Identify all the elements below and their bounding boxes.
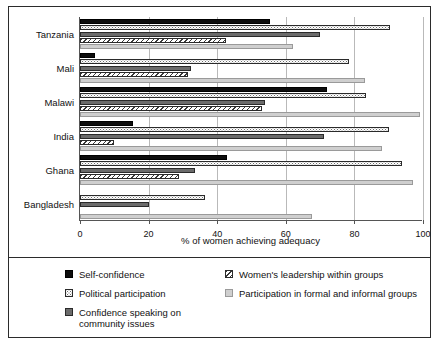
bar-row — [80, 72, 423, 77]
bar-row — [80, 214, 423, 219]
plot-wrapper: 020406080100TanzaniaMaliMalawiIndiaGhana… — [9, 7, 430, 255]
category-label: Ghana — [45, 165, 74, 176]
category-label: Mali — [57, 63, 74, 74]
bar-row — [80, 202, 423, 207]
bar-row — [80, 168, 423, 173]
bar-row — [80, 53, 423, 58]
bar — [80, 174, 179, 179]
bar-row — [80, 32, 423, 37]
bar — [80, 19, 270, 24]
bar — [80, 202, 149, 207]
bar — [80, 180, 413, 185]
bar — [80, 78, 365, 83]
bar — [80, 38, 226, 43]
bar — [80, 100, 265, 105]
bar-row — [80, 78, 423, 83]
bar-row — [80, 161, 423, 166]
legend-swatch-icon — [65, 270, 73, 278]
legend-item[interactable]: Women's leadership within groups — [225, 269, 425, 280]
legend-label: Women's leadership within groups — [239, 269, 383, 280]
bar — [80, 155, 227, 160]
plot-area: 020406080100TanzaniaMaliMalawiIndiaGhana… — [79, 17, 422, 221]
legend-column-left: Self-confidencePolitical participationCo… — [65, 269, 225, 337]
x-axis-label: % of women achieving adequacy — [79, 235, 422, 246]
bar-row — [80, 66, 423, 71]
bar — [80, 72, 188, 77]
legend-label: Participation in formal and informal gro… — [239, 288, 417, 299]
bar-row — [80, 127, 423, 132]
x-tick-mark — [423, 220, 424, 224]
bar-group: India — [80, 119, 422, 153]
legend-item[interactable]: Confidence speaking on community issues — [65, 307, 225, 329]
bar-row — [80, 189, 423, 194]
category-label: Tanzania — [36, 29, 74, 40]
bar-row — [80, 121, 423, 126]
legend-column-right: Women's leadership within groupsParticip… — [225, 269, 425, 307]
bar — [80, 44, 293, 49]
bar-group: Bangladesh — [80, 187, 422, 221]
bar-row — [80, 134, 423, 139]
chart-figure: 020406080100TanzaniaMaliMalawiIndiaGhana… — [8, 6, 431, 338]
legend-swatch-icon — [65, 308, 73, 316]
bar-row — [80, 59, 423, 64]
legend-item[interactable]: Self-confidence — [65, 269, 225, 280]
bar — [80, 112, 420, 117]
legend-swatch-icon — [225, 289, 233, 297]
category-label: Bangladesh — [24, 199, 74, 210]
bar — [80, 168, 195, 173]
gridline — [423, 17, 424, 220]
category-label: India — [53, 131, 74, 142]
bar-row — [80, 38, 423, 43]
bar-row — [80, 44, 423, 49]
bar-group: Mali — [80, 51, 422, 85]
bar-row — [80, 112, 423, 117]
bar-row — [80, 155, 423, 160]
bar-row — [80, 93, 423, 98]
chart-legend: Self-confidencePolitical participationCo… — [9, 258, 430, 337]
bar — [80, 214, 312, 219]
legend-swatch-icon — [225, 270, 233, 278]
legend-label: Confidence speaking on community issues — [79, 307, 225, 329]
bar — [80, 140, 114, 145]
category-label: Malawi — [44, 97, 74, 108]
bar — [80, 32, 320, 37]
bar-group: Ghana — [80, 153, 422, 187]
bar-row — [80, 180, 423, 185]
bar — [80, 121, 133, 126]
bar-group: Malawi — [80, 85, 422, 119]
bar-row — [80, 140, 423, 145]
bar-row — [80, 208, 423, 213]
bar-row — [80, 106, 423, 111]
bar — [80, 195, 205, 200]
bar — [80, 106, 262, 111]
legend-item[interactable]: Political participation — [65, 288, 225, 299]
bar — [80, 161, 402, 166]
bar — [80, 87, 327, 92]
bar-row — [80, 19, 423, 24]
bar-group: Tanzania — [80, 17, 422, 51]
bar-row — [80, 174, 423, 179]
bar-row — [80, 195, 423, 200]
bar — [80, 25, 390, 30]
bar — [80, 146, 382, 151]
legend-label: Political participation — [79, 288, 166, 299]
bar — [80, 134, 324, 139]
bar — [80, 53, 95, 58]
bar — [80, 59, 349, 64]
bar-row — [80, 25, 423, 30]
legend-swatch-icon — [65, 289, 73, 297]
legend-item[interactable]: Participation in formal and informal gro… — [225, 288, 425, 299]
bar-row — [80, 87, 423, 92]
bar-row — [80, 100, 423, 105]
bar-row — [80, 146, 423, 151]
bar — [80, 93, 366, 98]
bar — [80, 127, 389, 132]
bar — [80, 66, 191, 71]
legend-label: Self-confidence — [79, 269, 144, 280]
